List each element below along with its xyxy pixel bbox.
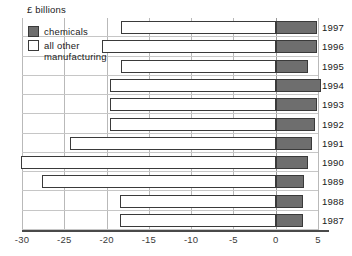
x-axis-line — [22, 230, 329, 232]
x-tick-label: -15 — [142, 234, 156, 245]
row-separator — [22, 113, 318, 114]
bar-segment-other-manufacturing — [21, 156, 276, 169]
bar-segment-chemicals — [276, 98, 317, 111]
legend-item-other-manufacturing: all other manufacturing — [28, 40, 107, 62]
x-tick-label: -30 — [15, 234, 29, 245]
x-tick-label: -10 — [184, 234, 198, 245]
x-tick-label: -20 — [99, 234, 113, 245]
bar-segment-other-manufacturing — [110, 79, 276, 92]
chart-legend: chemicals all other manufacturing — [28, 26, 107, 65]
year-label-1997: 1997 — [322, 22, 352, 33]
x-tick-label: 5 — [315, 234, 320, 245]
year-label-1989: 1989 — [322, 176, 352, 187]
row-separator — [22, 171, 318, 172]
legend-item-chemicals: chemicals — [28, 26, 107, 37]
row-separator — [22, 133, 318, 134]
gridline-5 — [318, 18, 319, 230]
bar-segment-chemicals — [276, 175, 304, 188]
axis-title: £ billions — [27, 4, 66, 15]
bar-segment-chemicals — [276, 214, 303, 227]
bar-segment-chemicals — [276, 79, 321, 92]
row-separator — [22, 75, 318, 76]
bar-segment-chemicals — [276, 156, 308, 169]
x-tick-label: -25 — [57, 234, 71, 245]
x-tick-label: -5 — [229, 234, 238, 245]
year-label-1987: 1987 — [322, 215, 352, 226]
row-separator — [22, 152, 318, 153]
bar-segment-other-manufacturing — [70, 137, 276, 150]
row-separator — [22, 210, 318, 211]
x-tick-label: 0 — [273, 234, 278, 245]
bar-segment-other-manufacturing — [110, 98, 276, 111]
bar-segment-other-manufacturing — [110, 118, 276, 131]
bar-segment-chemicals — [276, 137, 312, 150]
bar-segment-chemicals — [276, 40, 317, 53]
year-label-1996: 1996 — [322, 41, 352, 52]
bar-segment-other-manufacturing — [120, 214, 276, 227]
dark-square-icon — [28, 26, 39, 37]
year-label-1992: 1992 — [322, 119, 352, 130]
legend-label-chemicals: chemicals — [44, 26, 88, 37]
bar-segment-chemicals — [276, 21, 317, 34]
bar-segment-other-manufacturing — [120, 195, 276, 208]
bar-segment-chemicals — [276, 195, 303, 208]
year-label-1988: 1988 — [322, 196, 352, 207]
year-label-1993: 1993 — [322, 99, 352, 110]
bar-segment-other-manufacturing — [121, 60, 276, 73]
gridline-neg30 — [22, 18, 23, 230]
bar-segment-other-manufacturing — [121, 21, 276, 34]
bar-segment-other-manufacturing — [42, 175, 275, 188]
year-label-1994: 1994 — [322, 80, 352, 91]
row-separator — [22, 94, 318, 95]
bar-segment-chemicals — [276, 60, 308, 73]
year-label-1995: 1995 — [322, 61, 352, 72]
chart-container: £ billions -30-25-20-15-10-505 199719961… — [0, 0, 352, 256]
white-square-icon — [28, 40, 39, 51]
year-label-1990: 1990 — [322, 157, 352, 168]
bar-segment-other-manufacturing — [102, 40, 275, 53]
year-label-1991: 1991 — [322, 138, 352, 149]
legend-label-other-manufacturing: all other manufacturing — [44, 40, 107, 62]
row-separator — [22, 190, 318, 191]
bar-segment-chemicals — [276, 118, 315, 131]
